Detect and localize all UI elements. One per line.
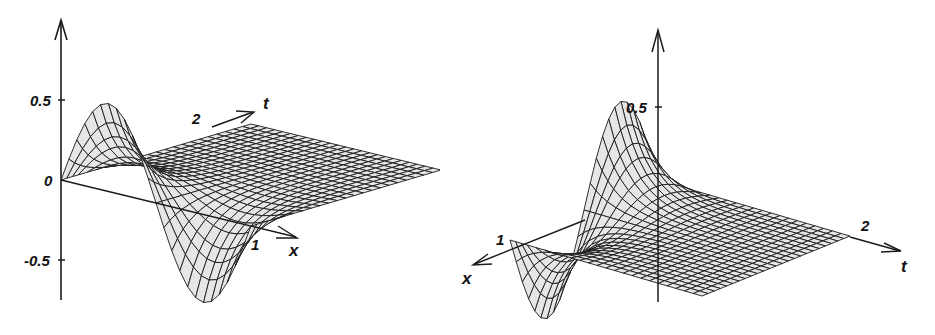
x-axis-arrow-icon [276, 226, 297, 238]
surface-plot-right: 0.5 1 x 2 t [440, 0, 935, 335]
surface-plot-left: 0.5 0 -0.5 1 x 2 t [0, 0, 440, 335]
x-axis-arrow-icon [473, 254, 492, 265]
t-axis-label: t [901, 257, 908, 276]
surface-left-canvas: 0.5 0 -0.5 1 x 2 t [0, 0, 440, 335]
t-tick-2: 2 [860, 217, 870, 234]
tick-label-0.5: 0.5 [626, 99, 648, 116]
tick-label-0.5: 0.5 [30, 92, 52, 109]
x-tick-1: 1 [251, 236, 259, 253]
x-tick-1: 1 [496, 231, 504, 248]
surface-mesh-right [510, 102, 850, 319]
t-axis [850, 237, 900, 251]
tick-label-minus-0.5: -0.5 [24, 252, 51, 269]
surface-right-canvas: 0.5 1 x 2 t [440, 0, 935, 335]
x-axis-label: x [288, 241, 300, 260]
surface-mesh-left [61, 104, 440, 303]
x-axis-label: x [461, 269, 473, 288]
t-axis-label: t [263, 94, 270, 113]
tick-label-0: 0 [44, 172, 53, 189]
t-axis-arrow-icon [881, 243, 901, 252]
t-tick-2: 2 [191, 110, 201, 127]
